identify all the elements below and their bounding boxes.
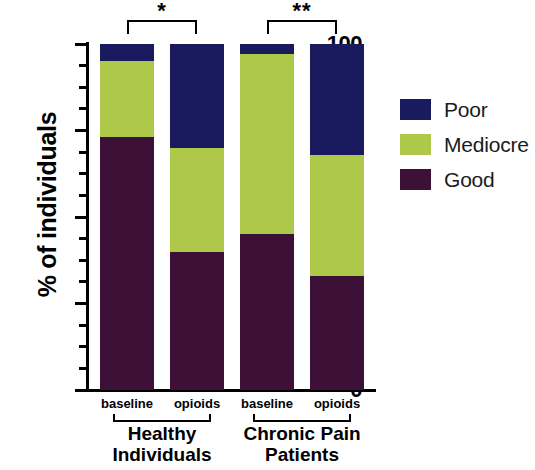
- bar-segment-poor: [170, 44, 224, 148]
- significance-star: **: [272, 0, 332, 22]
- bar-segment-mediocre: [170, 148, 224, 252]
- legend-swatch-mediocre: [400, 134, 431, 155]
- group-bracket: [113, 414, 211, 422]
- group-label-line2: Patients: [222, 445, 382, 466]
- legend-label: Mediocre: [444, 133, 529, 157]
- plot-area: 1007550250: [86, 44, 376, 390]
- group-bracket: [253, 414, 351, 422]
- stacked-bar: [240, 44, 294, 390]
- y-tick-major: [75, 43, 86, 46]
- group-label-line1: Chronic Pain: [222, 424, 382, 445]
- legend-item: Poor: [400, 92, 529, 127]
- y-tick-minor: [79, 237, 86, 240]
- y-tick-minor: [79, 324, 86, 327]
- stacked-bar-chart-figure: % of individuals 1007550250 *** baseline…: [0, 0, 535, 470]
- y-axis-title: % of individuals: [33, 80, 62, 330]
- y-tick-minor: [79, 345, 86, 348]
- y-tick-major: [75, 129, 86, 132]
- legend-item: Good: [400, 162, 529, 197]
- legend-swatch-poor: [400, 99, 431, 120]
- bar-segment-good: [310, 276, 364, 390]
- y-tick-major: [75, 302, 86, 305]
- y-tick-major: [75, 216, 86, 219]
- stacked-bar: [310, 44, 364, 390]
- bar-segment-good: [100, 137, 154, 390]
- bar-segment-good: [240, 234, 294, 390]
- legend-label: Good: [444, 168, 495, 192]
- y-tick-major: [75, 389, 86, 392]
- significance-star: *: [132, 0, 192, 22]
- y-tick-minor: [79, 86, 86, 89]
- y-tick-minor: [79, 151, 86, 154]
- stacked-bar: [170, 44, 224, 390]
- group-label-line2: Individuals: [82, 445, 242, 466]
- bar-segment-poor: [100, 44, 154, 61]
- x-tick-label: opioids: [157, 396, 237, 411]
- y-tick-minor: [79, 107, 86, 110]
- stacked-bar: [100, 44, 154, 390]
- y-tick-minor: [79, 172, 86, 175]
- x-tick-label: baseline: [87, 396, 167, 411]
- bar-segment-mediocre: [310, 155, 364, 276]
- legend-swatch-good: [400, 169, 431, 190]
- group-label: HealthyIndividuals: [82, 424, 242, 465]
- bar-segment-poor: [310, 44, 364, 155]
- x-tick-label: opioids: [297, 396, 377, 411]
- bar-segment-poor: [240, 44, 294, 54]
- y-tick-minor: [79, 259, 86, 262]
- legend-label: Poor: [444, 98, 488, 122]
- y-tick-minor: [79, 280, 86, 283]
- bar-segment-mediocre: [100, 61, 154, 137]
- legend-item: Mediocre: [400, 127, 529, 162]
- group-label: Chronic PainPatients: [222, 424, 382, 465]
- chart-legend: PoorMediocreGood: [400, 92, 529, 197]
- group-label-line1: Healthy: [82, 424, 242, 445]
- bar-segment-good: [170, 252, 224, 390]
- y-tick-minor: [79, 64, 86, 67]
- y-tick-minor: [79, 194, 86, 197]
- x-tick-label: baseline: [227, 396, 307, 411]
- y-tick-minor: [79, 367, 86, 370]
- bar-segment-mediocre: [240, 54, 294, 234]
